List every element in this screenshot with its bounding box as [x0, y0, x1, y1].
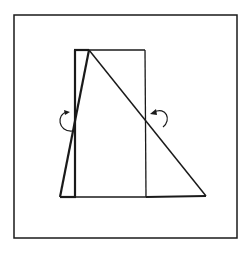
- outer-frame: [14, 15, 237, 238]
- left-rotation-arrow-icon: [60, 110, 72, 131]
- right-rotation-arrow-icon: [150, 109, 167, 127]
- triangle: [60, 50, 206, 197]
- diagram-canvas: [0, 0, 251, 253]
